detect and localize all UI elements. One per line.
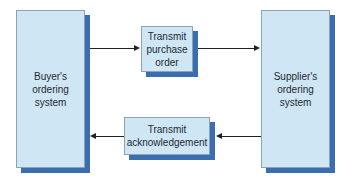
buyer-ordering-system-box: Buyer's ordering system (16, 10, 85, 168)
buyer-ordering-system-label: Buyer's ordering system (32, 70, 69, 109)
transmit-purchase-order-box: Transmit purchase order (141, 26, 193, 72)
arrowhead-left-icon (216, 133, 222, 139)
arrow-buyer-to-transmit-po (90, 48, 135, 49)
arrowhead-right-icon (254, 45, 260, 51)
arrow-supplier-to-transmit-ack (222, 136, 261, 137)
transmit-purchase-order-label: Transmit purchase order (146, 30, 187, 69)
arrowhead-left-icon (90, 133, 96, 139)
arrowhead-right-icon (134, 45, 140, 51)
transmit-acknowledgement-box: Transmit acknowledgement (124, 117, 210, 155)
transmit-acknowledgement-label: Transmit acknowledgement (127, 123, 208, 149)
supplier-ordering-system-label: Supplier's ordering system (274, 70, 318, 109)
arrow-transmit-ack-to-buyer (96, 136, 124, 137)
supplier-ordering-system-box: Supplier's ordering system (261, 10, 330, 168)
arrow-transmit-po-to-supplier (198, 48, 255, 49)
